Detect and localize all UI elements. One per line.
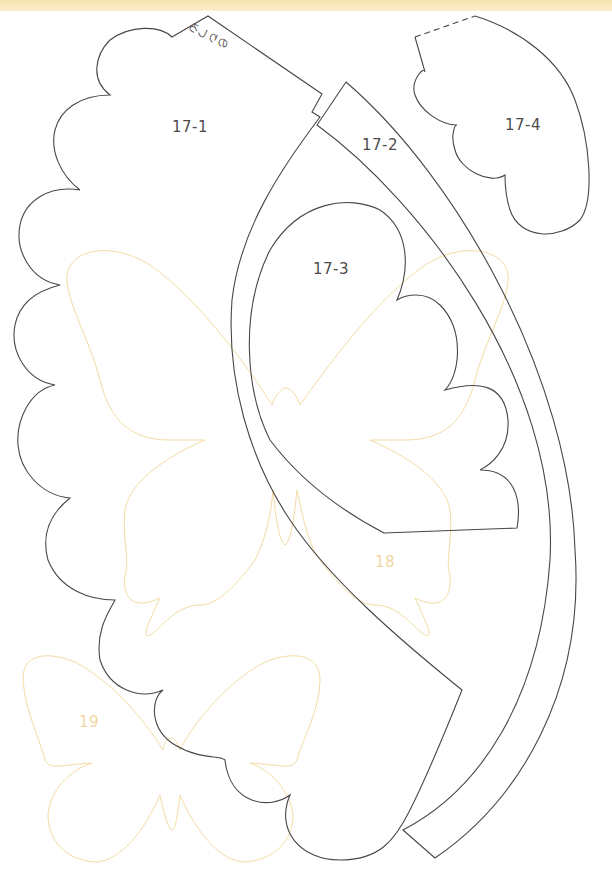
- piece-label-17-1: 17-1: [172, 118, 208, 136]
- piece-17-2-outline: [317, 82, 576, 858]
- butterfly-19-outline: [23, 656, 320, 862]
- piece-label-17-2: 17-2: [362, 136, 398, 154]
- piece-label-17-3: 17-3: [313, 260, 349, 278]
- butterfly-18-outline: [67, 251, 508, 636]
- piece-17-4-fold-line: [415, 16, 475, 37]
- piece-17-4-outline: [414, 16, 589, 234]
- piece-label-17-4: 17-4: [505, 116, 541, 134]
- piece-label-19: 19: [79, 713, 99, 731]
- piece-label-18: 18: [375, 553, 395, 571]
